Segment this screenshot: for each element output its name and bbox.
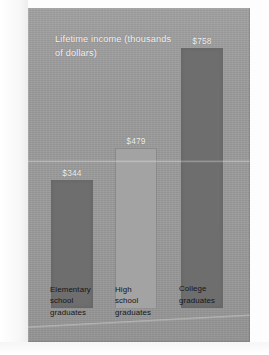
bar-value-high-school: $479 [126,136,145,146]
category-label-high-school-line-1: High [115,284,171,295]
chart-figure: Lifetime income (thousands of dollars) $… [0,0,269,355]
plot-area: Lifetime income (thousands of dollars) $… [28,8,250,342]
paper-margin-bottom [0,342,269,355]
category-label-high-school-line-3: graduates [115,307,171,318]
category-label-high-school-line-2: school [115,295,171,306]
bar-fill-college [181,48,223,308]
bar-college-graduates: $758 [181,48,223,308]
bar-value-elementary: $344 [62,168,81,178]
category-label-elementary-line-2: school [50,295,106,306]
bar-value-college: $758 [192,36,211,46]
category-label-high-school: High school graduates [115,284,171,318]
paper-margin-left [0,0,28,355]
category-label-elementary-line-3: graduates [50,307,106,318]
category-label-elementary: Elementary school graduates [50,284,106,318]
category-label-elementary-line-1: Elementary [50,284,106,295]
category-label-college: College graduates [179,283,235,306]
chart-plate: Lifetime income (thousands of dollars) $… [28,8,250,342]
category-label-college-line-2: graduates [179,295,235,306]
category-label-college-line-1: College [179,283,235,294]
